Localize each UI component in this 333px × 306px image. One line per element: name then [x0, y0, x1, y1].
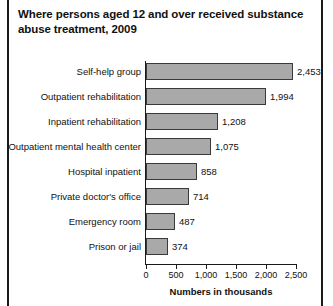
x-axis-tick	[206, 265, 207, 269]
bar	[146, 163, 197, 180]
bar	[146, 113, 218, 130]
bar	[146, 88, 266, 105]
bar-value-label: 858	[201, 166, 217, 177]
plot-area: 05001,0001,5002,0002,500Self-help group2…	[0, 0, 333, 306]
bar-value-label: 2,453	[297, 66, 321, 77]
x-axis-tick	[236, 265, 237, 269]
bar	[146, 238, 168, 255]
bar-value-label: 714	[193, 191, 209, 202]
bar-value-label: 487	[179, 216, 195, 227]
x-axis-line	[145, 264, 297, 265]
bar	[146, 63, 293, 80]
x-axis-tick-label: 2,500	[276, 270, 316, 281]
x-axis-title: Numbers in thousands	[146, 286, 296, 297]
category-label: Self-help group	[0, 66, 141, 77]
bar-value-label: 1,994	[270, 91, 294, 102]
category-label: Outpatient rehabilitation	[0, 91, 141, 102]
category-label: Emergency room	[0, 216, 141, 227]
bar	[146, 188, 189, 205]
category-label: Outpatient mental health center	[0, 141, 141, 152]
x-axis-tick	[146, 265, 147, 269]
x-axis-tick	[176, 265, 177, 269]
bar	[146, 213, 175, 230]
x-axis-tick	[266, 265, 267, 269]
bar	[146, 138, 211, 155]
category-label: Private doctor's office	[0, 191, 141, 202]
category-label: Inpatient rehabilitation	[0, 116, 141, 127]
figure-container: Where persons aged 12 and over received …	[0, 0, 333, 306]
bar-value-label: 374	[172, 241, 188, 252]
bar-value-label: 1,075	[215, 141, 239, 152]
x-axis-tick	[296, 265, 297, 269]
category-label: Prison or jail	[0, 241, 141, 252]
bar-value-label: 1,208	[222, 116, 246, 127]
category-label: Hospital inpatient	[0, 166, 141, 177]
